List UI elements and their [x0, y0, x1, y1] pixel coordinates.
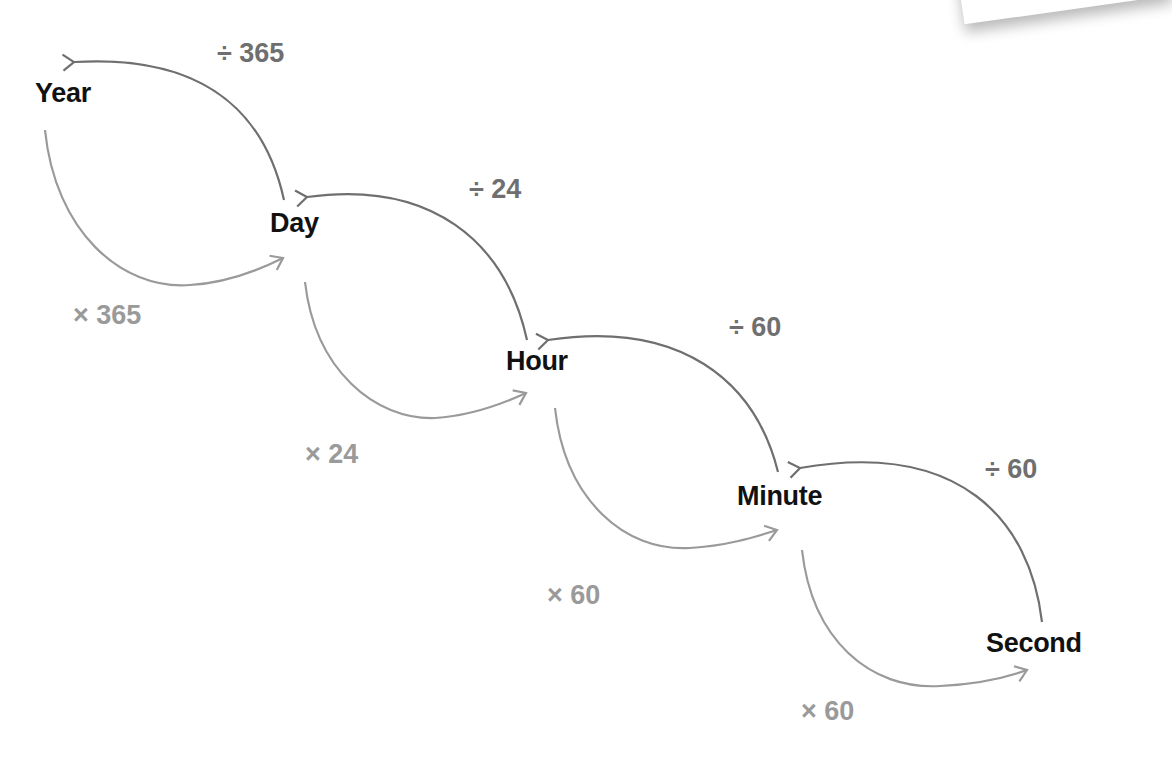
- unit-second: Second: [986, 628, 1082, 659]
- unit-minute: Minute: [737, 481, 822, 512]
- divide-arrow-minute-to-hour: [548, 336, 778, 472]
- divide-arrow-hour-to-day: [307, 194, 527, 340]
- divide-arrow-day-to-year: [74, 61, 284, 200]
- multiply-arrow-hour-to-minute: [555, 408, 777, 548]
- divide-label-year-day: ÷ 365: [217, 38, 284, 69]
- divide-label-hour-minute: ÷ 60: [729, 312, 781, 343]
- multiply-label-day-hour: × 24: [305, 439, 358, 470]
- multiply-label-minute-second: × 60: [801, 696, 854, 727]
- divide-label-minute-second: ÷ 60: [985, 454, 1037, 485]
- multiply-label-year-day: × 365: [73, 300, 141, 331]
- multiply-arrow-minute-to-second: [802, 550, 1027, 686]
- unit-day: Day: [270, 208, 319, 239]
- divide-label-day-hour: ÷ 24: [469, 174, 521, 205]
- multiply-label-hour-minute: × 60: [547, 580, 600, 611]
- divide-arrow-second-to-minute: [800, 462, 1042, 622]
- multiply-arrow-year-to-day: [45, 130, 283, 285]
- unit-hour: Hour: [506, 346, 568, 377]
- multiply-arrow-day-to-hour: [305, 282, 526, 418]
- unit-year: Year: [35, 78, 91, 109]
